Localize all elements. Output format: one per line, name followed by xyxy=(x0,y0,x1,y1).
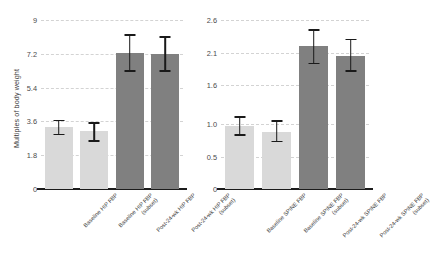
y-tick-label: 2.1 xyxy=(207,48,217,57)
bar-fill xyxy=(299,46,329,189)
bar-fill xyxy=(45,127,73,189)
bar xyxy=(151,54,179,189)
y-tick-label: 1.0 xyxy=(207,120,217,129)
bar-fill xyxy=(116,53,144,189)
error-bar-cap-bottom xyxy=(234,134,245,136)
error-bar-cap-top xyxy=(53,120,64,122)
bar-fill xyxy=(151,54,179,189)
x-axis-labels: Baseline HIP FBPBaseline HIP FBP(subset)… xyxy=(41,189,183,259)
plot-area-hip-fbp: 01.83.65.47.29Baseline HIP FBPBaseline H… xyxy=(41,20,183,189)
error-bar xyxy=(129,35,131,71)
error-bar-cap-top xyxy=(89,122,100,124)
y-tick-label: 5.4 xyxy=(27,83,37,92)
error-bar-cap-top xyxy=(124,34,135,36)
y-tick-label: 0.5 xyxy=(207,152,217,161)
bar xyxy=(116,53,144,189)
error-bar-cap-top xyxy=(160,36,171,38)
y-tick-label: 3.6 xyxy=(27,117,37,126)
bar xyxy=(45,127,73,189)
x-axis-labels: Baseline SPINE FBPBaseline SPINE FBP(sub… xyxy=(221,189,369,259)
error-bar xyxy=(239,117,241,135)
bar-fill xyxy=(336,56,366,189)
error-bar-cap-bottom xyxy=(345,70,356,72)
error-bar xyxy=(350,40,352,72)
error-bar-cap-top xyxy=(271,120,282,122)
error-bar-cap-bottom xyxy=(308,63,319,65)
x-axis-category-label: Baseline SPINE FBP xyxy=(265,192,307,234)
error-bar xyxy=(276,121,278,142)
error-bar-cap-bottom xyxy=(53,134,64,136)
error-bar-cap-top xyxy=(234,116,245,118)
x-label-line1: Baseline HIP FBP xyxy=(82,192,118,228)
error-bar-cap-bottom xyxy=(271,141,282,143)
error-bar xyxy=(313,30,315,64)
error-bar xyxy=(58,120,60,134)
error-bar xyxy=(164,37,166,71)
y-tick-label: 1.8 xyxy=(27,151,37,160)
gridline xyxy=(221,53,369,54)
error-bar-cap-top xyxy=(345,39,356,41)
error-bar xyxy=(93,123,95,141)
panel-spine-fbp: 00.51.01.62.12.6Baseline SPINE FBPBaseli… xyxy=(191,0,382,263)
panel-hip-fbp: Multiples of body weight 01.83.65.47.29B… xyxy=(0,0,191,263)
gridline xyxy=(221,20,369,21)
error-bar-cap-bottom xyxy=(160,70,171,72)
y-tick-label: 1.6 xyxy=(207,81,217,90)
error-bar-cap-top xyxy=(308,29,319,31)
y-axis-title: Multiples of body weight xyxy=(12,49,21,169)
x-axis-category-label: Baseline HIP FBP xyxy=(82,192,119,229)
y-tick-label: 9 xyxy=(33,16,37,25)
y-tick-label: 0 xyxy=(213,185,217,194)
bar xyxy=(336,56,366,189)
plot-area-spine-fbp: 00.51.01.62.12.6Baseline SPINE FBPBaseli… xyxy=(221,20,369,189)
x-label-line1: Post-24-wk HIP FBP xyxy=(155,192,196,233)
x-label-line2: (subset) xyxy=(383,197,430,244)
x-axis-category-label: Baseline HIP FBP(subset) xyxy=(118,192,160,234)
error-bar-cap-bottom xyxy=(89,140,100,142)
x-axis-category-label: Post-24-wk SPINE FBP(subset) xyxy=(378,192,430,244)
y-tick-label: 7.2 xyxy=(27,49,37,58)
x-label-line1: Baseline SPINE FBP xyxy=(265,192,307,234)
bar xyxy=(299,46,329,189)
gridline xyxy=(41,20,183,21)
y-tick-label: 0 xyxy=(33,185,37,194)
error-bar-cap-bottom xyxy=(124,70,135,72)
y-tick-label: 2.6 xyxy=(207,16,217,25)
